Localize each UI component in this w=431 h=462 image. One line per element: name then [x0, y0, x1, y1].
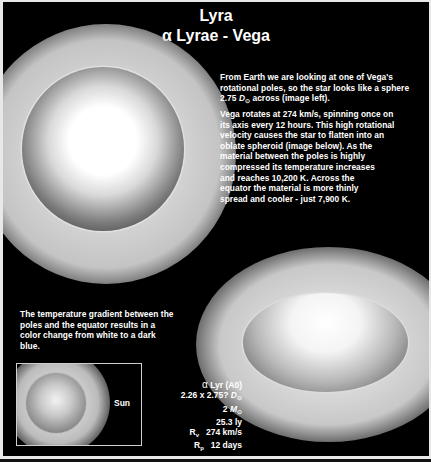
fact-label-sub: v: [196, 432, 199, 438]
page-title: Lyra: [3, 6, 429, 26]
text-line: oblate spheroid (image below). As the: [220, 141, 429, 152]
text-line: equator the material is more thinly: [220, 183, 429, 194]
text-line: The temperature gradient between the: [20, 309, 220, 320]
sun-symbol-icon: ⊙: [237, 395, 242, 401]
text-line: its axis every 12 hours. This high rotat…: [220, 120, 429, 131]
sun-symbol-icon: ⊙: [237, 409, 242, 415]
fact-value: 2.26 x 2.75?: [181, 390, 231, 400]
text-line: material between the poles is highly: [220, 151, 429, 162]
fact-distance: 25.3 ly: [145, 417, 242, 427]
vega-comparison-disc: [26, 373, 86, 433]
fact-value: 274 km/s: [206, 427, 242, 437]
text-line: and reaches 10,200 K. Across the: [220, 173, 429, 184]
text-line: blue.: [20, 341, 220, 352]
fact-rotational-period: Rp12 days: [145, 440, 242, 453]
text-line: spread and cooler - just 7,900 K.: [220, 194, 429, 205]
fact-value: 2: [223, 404, 230, 414]
fact-unit: M: [230, 404, 237, 414]
text-line: poles and the equator results in a: [20, 320, 220, 331]
vega-oblate-spheroid-image: [243, 293, 408, 392]
fact-rotational-velocity: Rv274 km/s: [145, 427, 242, 440]
star-facts: α Lyr (A0) 2.26 x 2.75? D⊙ 2 M⊙ 25.3 ly …: [145, 380, 242, 454]
subtitle-text: Lyrae - Vega: [176, 27, 270, 44]
sun-comparison-box: Sun: [16, 363, 142, 446]
infographic-panel: Lyra α Lyrae - Vega From Earth we are lo…: [3, 2, 429, 456]
text-line: velocity causes the star to flatten into…: [220, 130, 429, 141]
text-line: rotational poles, so the star looks like…: [220, 83, 429, 94]
diameter-value: 2.75: [220, 93, 239, 103]
text-fragment: across (image left).: [250, 93, 330, 103]
paragraph-rotation: Vega rotates at 274 km/s, spinning once …: [220, 109, 429, 204]
fact-label-sub: p: [200, 445, 204, 451]
text-line: Vega rotates at 274 km/s, spinning once …: [220, 109, 429, 120]
fact-name: α Lyr (A0): [145, 380, 242, 390]
paragraph-pole-view: From Earth we are looking at one of Vega…: [220, 72, 429, 107]
text-line: 2.75 D⊙ across (image left).: [220, 93, 429, 107]
sun-label: Sun: [114, 398, 130, 408]
alpha-symbol: α: [202, 379, 208, 390]
fact-value: Lyr (A0): [210, 380, 242, 390]
text-line: From Earth we are looking at one of Vega…: [220, 72, 429, 83]
paragraph-temperature-gradient: The temperature gradient between the pol…: [20, 309, 220, 351]
text-line: compressed its temperature increases: [220, 162, 429, 173]
fact-diameter: 2.26 x 2.75? D⊙: [145, 390, 242, 403]
fact-value: 12 days: [211, 440, 242, 450]
text-line: color change from white to a dark: [20, 330, 220, 341]
vega-pole-view-image: [22, 67, 184, 231]
fact-mass: 2 M⊙: [145, 404, 242, 417]
